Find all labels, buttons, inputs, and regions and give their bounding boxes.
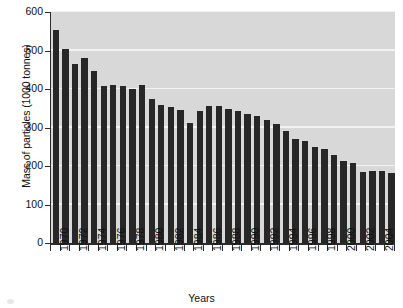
bar (158, 105, 164, 243)
x-axis-tick-mark (50, 245, 51, 251)
plot-area (50, 12, 395, 243)
bar (62, 49, 68, 243)
x-axis-tick-label: 1994 (287, 228, 299, 251)
bar (149, 99, 155, 243)
x-axis-tick-label: 1980 (153, 228, 165, 251)
x-axis-tick-label: 2000 (345, 228, 357, 251)
bar (139, 85, 145, 243)
bar (53, 30, 59, 243)
bar (225, 109, 231, 243)
scan-artifact (7, 299, 14, 304)
bar (206, 106, 212, 243)
bar (283, 131, 289, 243)
x-axis-tick-label: 1974 (96, 228, 108, 251)
x-axis-tick-label: 1988 (230, 228, 242, 251)
y-axis-tick-label: 600 (25, 5, 43, 17)
bar (120, 86, 126, 243)
bar (244, 114, 250, 243)
y-axis-tick-label: 100 (25, 198, 43, 210)
bar (91, 71, 97, 243)
x-axis-tick-label: 1970 (58, 228, 70, 251)
bar (168, 107, 174, 243)
bar (101, 86, 107, 243)
bar (235, 111, 241, 243)
x-axis-tick-label: 1984 (192, 228, 204, 251)
bar (177, 110, 183, 243)
x-axis-tick-label: 1990 (249, 228, 261, 251)
x-axis-tick-label: 1982 (173, 228, 185, 251)
y-axis-tick-label: 400 (25, 82, 43, 94)
bar (81, 58, 87, 243)
bar (72, 64, 78, 243)
bar-chart: Mass of particles (1000 tonnes) 01002003… (0, 0, 403, 308)
y-axis-tick-label: 0 (37, 236, 43, 248)
x-axis-tick-label: 1986 (211, 228, 223, 251)
x-axis-tick-label: 2004 (383, 228, 395, 251)
x-axis-title: Years (0, 292, 403, 304)
x-axis-tick-label: 1972 (77, 228, 89, 251)
x-axis-tick-labels: 1970197219741976197819801982198419861988… (50, 251, 394, 295)
x-axis-tick-label: 1996 (306, 228, 318, 251)
y-axis-tick-label: 200 (25, 159, 43, 171)
bar (187, 123, 193, 243)
bar (273, 124, 279, 243)
x-axis-tick-label: 1998 (325, 228, 337, 251)
bar (264, 120, 270, 243)
bar (216, 106, 222, 243)
x-axis-tick-label: 2002 (364, 228, 376, 251)
y-axis-tick-label: 300 (25, 121, 43, 133)
bar-series (51, 12, 395, 243)
bar (110, 85, 116, 243)
x-axis-tick-label: 1978 (134, 228, 146, 251)
bar (129, 89, 135, 243)
y-axis: 0100200300400500600 (0, 0, 50, 250)
y-axis-tick-label: 500 (25, 44, 43, 56)
x-axis-tick-label: 1992 (268, 228, 280, 251)
bar (197, 111, 203, 243)
bar (254, 116, 260, 243)
x-axis-tick-label: 1976 (115, 228, 127, 251)
